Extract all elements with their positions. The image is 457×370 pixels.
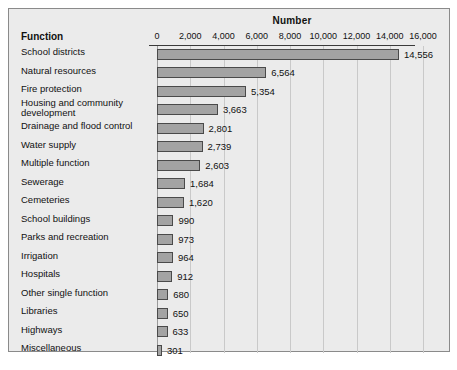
bar-row: Drainage and flood control2,801 (9, 119, 451, 138)
bar-value-label: 964 (178, 252, 194, 264)
bar-category-label: Irrigation (21, 251, 147, 261)
bar-value-label: 650 (173, 308, 189, 320)
bar-category-label: Other single function (21, 288, 147, 298)
bar (157, 197, 184, 208)
bar-row: Libraries650 (9, 304, 451, 323)
bar-value-label: 5,354 (251, 86, 275, 98)
bar (157, 104, 218, 115)
x-tick-label: 12,000 (343, 31, 371, 41)
bar-value-label: 301 (167, 345, 183, 357)
bar-category-label: Libraries (21, 306, 147, 316)
bar-row: Hospitals912 (9, 267, 451, 286)
x-tick-label: 8,000 (279, 31, 302, 41)
bar-value-label: 633 (173, 326, 189, 338)
x-tick-label: 6,000 (245, 31, 268, 41)
bar-value-label: 1,684 (190, 178, 214, 190)
bar (157, 160, 200, 171)
x-tick-label: 10,000 (309, 31, 337, 41)
bar-value-label: 2,603 (205, 160, 229, 172)
bar (157, 345, 162, 356)
bar-category-label: Housing and community development (21, 98, 147, 119)
bar-category-label: School buildings (21, 214, 147, 224)
bar-row: Irrigation964 (9, 249, 451, 268)
bar-row: Natural resources6,564 (9, 64, 451, 83)
bar-category-label: Parks and recreation (21, 232, 147, 242)
bar-value-label: 2,801 (209, 123, 233, 135)
bar-row: Parks and recreation973 (9, 230, 451, 249)
bar-row: Multiple function2,603 (9, 156, 451, 175)
bar (157, 308, 168, 319)
bar (157, 141, 203, 152)
bar-value-label: 6,564 (271, 67, 295, 79)
bar-category-label: Sewerage (21, 177, 147, 187)
x-tick-label: 16,000 (409, 31, 437, 41)
bar-row: Other single function680 (9, 286, 451, 305)
bar-category-label: Cemeteries (21, 195, 147, 205)
bar (157, 123, 204, 134)
bar (157, 67, 266, 78)
bar-row: Water supply2,739 (9, 138, 451, 157)
bar-row: School buildings990 (9, 212, 451, 231)
bar (157, 178, 185, 189)
bar-category-label: Fire protection (21, 84, 147, 94)
x-axis-tick-labels: 02,0004,0006,0008,00010,00012,00014,0001… (9, 31, 451, 45)
bar-category-label: Water supply (21, 140, 147, 150)
bar (157, 289, 168, 300)
bar-rows: School districts14,556Natural resources6… (9, 45, 451, 353)
bar-value-label: 14,556 (404, 49, 433, 61)
bar-row: Sewerage1,684 (9, 175, 451, 194)
x-tick-label: 2,000 (179, 31, 202, 41)
bar (157, 271, 172, 282)
bar-value-label: 973 (178, 234, 194, 246)
bar-category-label: Miscellaneous (21, 343, 147, 353)
bar-value-label: 680 (173, 289, 189, 301)
bar-category-label: School districts (21, 47, 147, 57)
x-tick-label: 0 (154, 31, 159, 41)
bar-category-label: Hospitals (21, 269, 147, 279)
bar-value-label: 1,620 (189, 197, 213, 209)
bar-row: School districts14,556 (9, 45, 451, 64)
bar-row: Miscellaneous301 (9, 341, 451, 360)
bar-value-label: 912 (177, 271, 193, 283)
bar (157, 326, 168, 337)
bar (157, 49, 399, 60)
chart-figure: Number Function 02,0004,0006,0008,00010,… (8, 8, 450, 352)
bar (157, 215, 173, 226)
bar-value-label: 3,663 (223, 104, 247, 116)
bar (157, 252, 173, 263)
x-tick-label: 14,000 (376, 31, 404, 41)
bar-category-label: Natural resources (21, 66, 147, 76)
x-tick-label: 4,000 (212, 31, 235, 41)
bar (157, 86, 246, 97)
bar-value-label: 990 (178, 215, 194, 227)
bar-row: Housing and community development3,663 (9, 101, 451, 120)
bar-category-label: Drainage and flood control (21, 121, 147, 131)
bar-category-label: Multiple function (21, 158, 147, 168)
bar-value-label: 2,739 (208, 141, 232, 153)
bar-row: Highways633 (9, 323, 451, 342)
bar (157, 234, 173, 245)
chart-axis-title: Number (157, 15, 427, 26)
bar-category-label: Highways (21, 325, 147, 335)
bar-row: Cemeteries1,620 (9, 193, 451, 212)
